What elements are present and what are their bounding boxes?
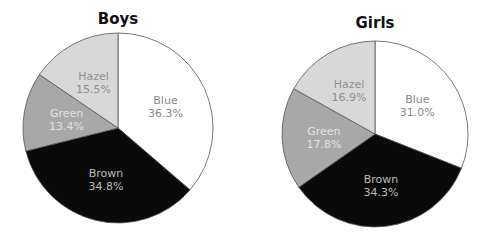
slice-label-green: Green13.4% (49, 107, 84, 133)
slice-label-brown: Brown34.8% (88, 167, 123, 193)
girls-pie: Blue31.0%Brown34.3%Green17.8%Hazel16.9% (282, 41, 468, 227)
slice-label-hazel: Hazel16.9% (332, 78, 367, 104)
pie-charts: Blue36.3%Brown34.8%Green13.4%Hazel15.5%B… (0, 0, 489, 238)
slice-label-green: Green17.8% (306, 125, 341, 151)
boys-pie: Blue36.3%Brown34.8%Green13.4%Hazel15.5% (23, 33, 213, 223)
slice-label-hazel: Hazel15.5% (76, 70, 111, 96)
slice-label-brown: Brown34.3% (363, 173, 398, 199)
